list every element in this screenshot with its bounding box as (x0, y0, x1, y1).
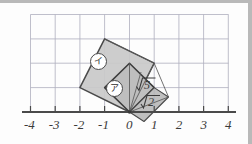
label-circle-i: イ (90, 53, 107, 70)
tick-label-minus-4: -4 (24, 118, 35, 131)
tick-label-3: 3 (200, 118, 207, 131)
tick-label-0: 0 (126, 118, 133, 131)
tick-label-minus-2: -2 (73, 118, 84, 131)
tick-label-1: 1 (151, 118, 158, 131)
tick-label-2: 2 (176, 118, 183, 131)
tick-label-minus-3: -3 (49, 118, 60, 131)
figure-page: ア イ 5 2 -4 -3 -2 -1 0 1 2 3 4 (0, 0, 252, 144)
label-root-five: 5 (144, 78, 150, 93)
tick-label-minus-1: -1 (98, 118, 109, 131)
tick-label-4: 4 (225, 118, 232, 131)
label-root-two: 2 (148, 95, 154, 110)
label-circle-a: ア (106, 80, 123, 97)
